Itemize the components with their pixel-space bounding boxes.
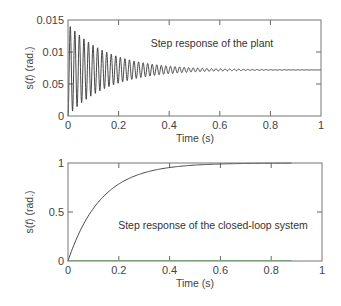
figure: 00.20.40.60.81 00.050.010.015 Step respo… [0, 0, 341, 306]
y-tick-label: 1 [58, 157, 64, 169]
x-tick-label: 0.8 [263, 119, 278, 131]
plot0-ytick-labels: 00.050.010.015 [36, 14, 64, 122]
y-tick-label: 0 [58, 255, 64, 267]
plot0-annotation: Step response of the plant [151, 37, 274, 49]
plot1-y-axis-label: s(t) (rad.) [23, 190, 35, 233]
plot1-ytick-labels: 00.51 [49, 157, 64, 267]
y-tick-label: 0 [58, 110, 64, 122]
plot1-ylabel-suffix: ) (rad.) [23, 190, 35, 222]
closed-loop-step-response-plot: 00.20.40.60.81 00.51 Step response of th… [23, 157, 325, 289]
x-tick-label: 0.4 [162, 264, 177, 276]
plot0-y-axis-label: s(t) (rad.) [23, 46, 35, 89]
plot0-ylabel-suffix: ) (rad.) [23, 46, 35, 78]
plot1-xtick-labels: 00.20.40.60.81 [65, 264, 325, 276]
x-tick-label: 0.4 [162, 119, 177, 131]
plot1-annotation: Step response of the closed-loop system [118, 219, 308, 231]
y-tick-label: 0.05 [43, 78, 64, 90]
x-tick-label: 0 [65, 119, 71, 131]
x-tick-label: 0 [65, 264, 71, 276]
x-tick-label: 0.8 [264, 264, 279, 276]
x-tick-label: 0.6 [212, 119, 227, 131]
x-tick-label: 1 [318, 119, 324, 131]
y-tick-label: 0.01 [43, 46, 64, 58]
x-tick-label: 0.6 [213, 264, 228, 276]
plot1-x-axis-label: Time (s) [176, 277, 214, 289]
plot1-axes-frame [68, 163, 322, 261]
closed-loop-response-curve [68, 163, 292, 261]
x-tick-label: 0.2 [111, 119, 126, 131]
plot0-x-axis-label: Time (s) [176, 132, 214, 144]
x-tick-label: 1 [319, 264, 325, 276]
y-tick-label: 0.015 [36, 14, 64, 26]
plot0-xtick-labels: 00.20.40.60.81 [65, 119, 324, 131]
plot1-ticks [68, 163, 322, 261]
x-tick-label: 0.2 [111, 264, 126, 276]
plant-step-response-plot: 00.20.40.60.81 00.050.010.015 Step respo… [23, 14, 324, 144]
y-tick-label: 0.5 [49, 206, 64, 218]
